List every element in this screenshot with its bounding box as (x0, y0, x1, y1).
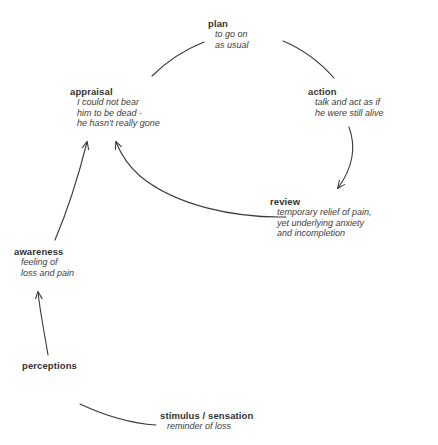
node-perceptions: perceptions (22, 360, 77, 371)
node-action-line-1: talk and act as if (315, 97, 384, 108)
connector-stimulus-to-perceptions (80, 404, 156, 425)
node-plan-description: to go on as usual (208, 29, 249, 50)
node-action-title: action (308, 86, 384, 97)
node-review: review temporary relief of pain, yet und… (270, 196, 372, 239)
connector-layer (0, 0, 438, 445)
node-appraisal-description: I could not bear him to be dead - he has… (70, 97, 160, 129)
connector-perceptions-to-awareness (38, 292, 48, 355)
node-review-title: review (270, 196, 372, 207)
node-action-line-2: he were still alive (315, 108, 384, 119)
node-review-line-3: and incompletion (277, 228, 372, 239)
node-review-description: temporary relief of pain, yet underlying… (270, 207, 372, 239)
node-stimulus: stimulus / sensation reminder of loss (160, 410, 253, 432)
connector-action-to-review (338, 127, 353, 188)
node-awareness-line-2: loss and pain (21, 268, 74, 279)
node-appraisal-title: appraisal (70, 86, 160, 97)
connector-appraisal-to-plan (152, 42, 204, 76)
node-plan-line-1: to go on (215, 29, 249, 40)
node-awareness-description: feeling of loss and pain (14, 257, 74, 278)
node-stimulus-line-1: reminder of loss (167, 421, 253, 432)
node-action: action talk and act as if he were still … (308, 86, 384, 118)
connector-awareness-to-appraisal (55, 142, 87, 240)
connector-plan-to-action (283, 41, 334, 78)
node-stimulus-description: reminder of loss (160, 421, 253, 432)
node-stimulus-title: stimulus / sensation (160, 410, 253, 421)
node-review-line-1: temporary relief of pain, (277, 207, 372, 218)
node-awareness: awareness feeling of loss and pain (14, 246, 74, 278)
node-action-description: talk and act as if he were still alive (308, 97, 384, 118)
node-appraisal: appraisal I could not bear him to be dea… (70, 86, 160, 129)
grief-cycle-diagram: plan to go on as usual appraisal I could… (0, 0, 438, 445)
node-appraisal-line-3: he hasn't really gone (77, 118, 160, 129)
node-awareness-line-1: feeling of (21, 257, 74, 268)
node-plan: plan to go on as usual (208, 18, 249, 50)
node-awareness-title: awareness (14, 246, 74, 257)
node-appraisal-line-1: I could not bear (77, 97, 160, 108)
connector-review-to-appraisal (116, 142, 286, 217)
node-plan-title: plan (208, 18, 249, 29)
node-perceptions-title: perceptions (22, 360, 77, 371)
node-appraisal-line-2: him to be dead - (77, 108, 160, 119)
node-review-line-2: yet underlying anxiety (277, 218, 372, 229)
node-plan-line-2: as usual (215, 40, 249, 51)
